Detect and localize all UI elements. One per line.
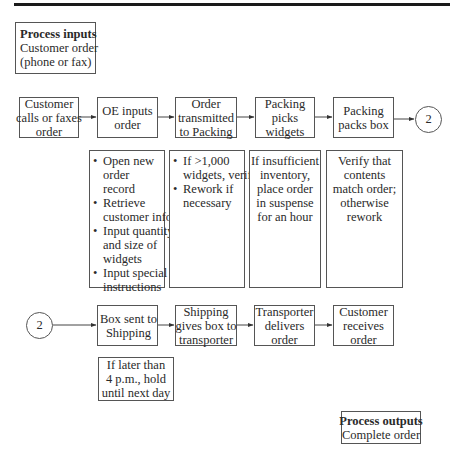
step-text: Customer	[339, 305, 388, 319]
bullet-text: widgets	[103, 252, 173, 266]
connector-label: 2	[36, 318, 42, 333]
detail-text: inventory,	[260, 168, 310, 182]
detail-text: Verify that	[338, 154, 391, 168]
bullet-text: Open new	[103, 154, 173, 168]
bullet-text: and size of	[103, 238, 173, 252]
detail-text: otherwise	[340, 196, 389, 210]
step-shipping-gives-box: Shipping gives box to transporter	[175, 305, 237, 346]
step-packing-packs-box: Packing packs box	[333, 97, 394, 138]
step-transporter-delivers: Transporter delivers order	[254, 305, 315, 346]
detail-text: match order;	[333, 182, 397, 196]
detail-bullet: Retrieve customer info	[93, 196, 173, 224]
step-text: OE inputs	[102, 104, 152, 118]
step-text: calls or faxes	[16, 111, 82, 125]
detail-text: place order	[257, 182, 313, 196]
detail-bullet-list: If >1,000 widgets, verify Rework if nece…	[173, 154, 258, 210]
bullet-text: customer info	[103, 210, 173, 224]
step-text: receives	[343, 319, 384, 333]
step-text: Packing	[265, 97, 305, 111]
process-outputs-title: Process outputs	[339, 414, 422, 428]
note-later-than-4pm: If later than 4 p.m., hold until next da…	[98, 357, 174, 401]
detail-packing-picks: If insufficient inventory, place order i…	[249, 150, 321, 288]
step-text: transmitted	[178, 111, 234, 125]
detail-order-transmitted: If >1,000 widgets, verify Rework if nece…	[169, 150, 245, 288]
step-text: transporter	[179, 333, 233, 347]
step-text: order	[36, 125, 62, 139]
process-outputs-box: Process outputs Complete order	[341, 411, 421, 444]
header-rule	[14, 3, 450, 6]
step-text: delivers	[265, 319, 305, 333]
connector-circle-out: 2	[415, 106, 442, 133]
connector-circle-in: 2	[26, 312, 53, 339]
bullet-text: widgets, verify	[183, 168, 258, 182]
bullet-text: Rework if	[183, 182, 258, 196]
bullet-text: instructions	[103, 280, 173, 294]
step-text: gives box to	[175, 319, 236, 333]
step-text: Box sent to	[100, 312, 157, 326]
step-text: widgets	[266, 125, 305, 139]
note-text: If later than	[107, 358, 165, 372]
connector-label: 2	[425, 112, 431, 127]
detail-packing-packs: Verify that contents match order; otherw…	[326, 150, 403, 288]
step-text: packs box	[338, 118, 388, 132]
step-text: Packing	[343, 104, 383, 118]
step-text: Transporter	[256, 305, 314, 319]
detail-bullet: If >1,000 widgets, verify	[173, 154, 258, 182]
step-text: Shipping	[183, 305, 228, 319]
step-text: order	[114, 118, 140, 132]
bullet-text: Input special	[103, 266, 173, 280]
detail-bullet-list: Open new order record Retrieve customer …	[93, 154, 173, 294]
detail-text: for an hour	[257, 210, 313, 224]
bullet-text: record	[103, 182, 173, 196]
step-order-transmitted: Order transmitted to Packing	[175, 97, 237, 138]
process-outputs-line: Complete order	[342, 428, 420, 442]
bullet-text: Input quantity	[103, 224, 173, 238]
process-inputs-title: Process inputs	[20, 27, 97, 41]
bullet-text: Retrieve	[103, 196, 173, 210]
step-text: order	[271, 333, 297, 347]
detail-text: If insufficient	[251, 154, 319, 168]
detail-oe-inputs: Open new order record Retrieve customer …	[89, 150, 165, 288]
bullet-text: order	[103, 168, 173, 182]
process-inputs-line: (phone or fax)	[20, 55, 92, 69]
note-text: until next day	[102, 386, 171, 400]
step-text: order	[350, 333, 376, 347]
step-text: Shipping	[106, 326, 151, 340]
bullet-text: If >1,000	[183, 154, 258, 168]
step-text: Customer	[25, 97, 74, 111]
step-oe-inputs-order: OE inputs order	[97, 97, 158, 138]
detail-text: rework	[347, 210, 382, 224]
step-text: to Packing	[179, 125, 232, 139]
note-text: 4 p.m., hold	[106, 372, 166, 386]
bullet-text: necessary	[183, 196, 258, 210]
step-box-sent-to-shipping: Box sent to Shipping	[97, 305, 158, 346]
detail-text: contents	[344, 168, 386, 182]
step-text: Order	[191, 97, 220, 111]
detail-bullet: Open new order record	[93, 154, 173, 196]
step-text: picks	[272, 111, 298, 125]
detail-bullet: Rework if necessary	[173, 182, 258, 210]
step-customer-calls-or-faxes: Customer calls or faxes order	[19, 97, 79, 138]
detail-bullet: Input quantity and size of widgets	[93, 224, 173, 266]
step-packing-picks-widgets: Packing picks widgets	[255, 97, 315, 138]
detail-bullet: Input special instructions	[93, 266, 173, 294]
process-inputs-box: Process inputs Customer order (phone or …	[15, 22, 96, 74]
process-inputs-line: Customer order	[20, 41, 98, 55]
step-customer-receives: Customer receives order	[333, 305, 394, 346]
detail-text: in suspense	[256, 196, 313, 210]
